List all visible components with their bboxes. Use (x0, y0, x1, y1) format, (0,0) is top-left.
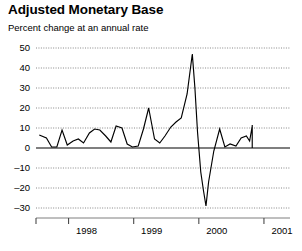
y-axis-tick-label: 0 (25, 142, 30, 153)
y-axis-tick-label: 40 (19, 62, 30, 73)
x-axis-tick-label: 1999 (141, 225, 162, 236)
chart-figure: Adjusted Monetary Base Percent change at… (0, 0, 302, 251)
data-series-lines (39, 54, 252, 206)
y-axis-tick-label: 10 (19, 122, 30, 133)
y-axis-tick-label: 50 (19, 42, 30, 53)
y-axis-tick-label: –30 (14, 202, 30, 213)
y-axis-tick-label: 20 (19, 102, 30, 113)
y-axis-tick-label: –20 (14, 182, 30, 193)
x-axis (36, 218, 290, 224)
y-axis-tick-label: –10 (14, 162, 30, 173)
y-axis-tick-label: 30 (19, 82, 30, 93)
x-axis-tick-labels: 1998199920002001 (76, 225, 293, 236)
data-line (39, 54, 252, 206)
chart-plot-area: 50403020100–10–20–30 1998199920002001 (0, 0, 302, 251)
x-axis-tick-label: 2001 (271, 225, 292, 236)
y-axis-tick-labels: 50403020100–10–20–30 (14, 42, 30, 213)
x-axis-tick-label: 2000 (206, 225, 227, 236)
x-axis-tick-label: 1998 (76, 225, 97, 236)
